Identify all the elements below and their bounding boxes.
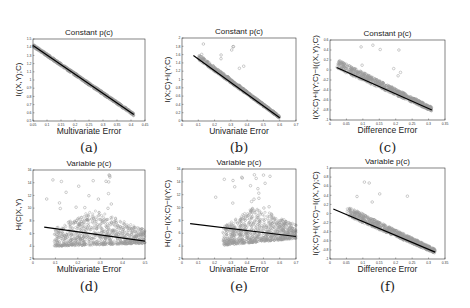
svg-text:0.8: 0.8: [324, 175, 329, 179]
svg-text:-0.8: -0.8: [323, 248, 329, 252]
svg-text:-0.6: -0.6: [323, 98, 329, 102]
svg-text:-0.4: -0.4: [323, 88, 329, 92]
y-axis-label: I(X;C)+I(Y;C)−I((X,Y);C): [311, 40, 320, 120]
svg-text:-1: -1: [325, 118, 328, 122]
svg-text:16: 16: [28, 168, 32, 172]
subfigure-label: (c): [330, 140, 445, 155]
svg-text:1.5: 1.5: [27, 37, 32, 41]
svg-text:4: 4: [179, 244, 181, 248]
svg-text:10: 10: [177, 206, 181, 210]
chart-title: Variable p(c): [182, 158, 296, 167]
svg-text:1.2: 1.2: [27, 62, 32, 66]
svg-text:0.6: 0.6: [176, 94, 181, 98]
svg-text:8: 8: [179, 219, 181, 223]
svg-text:0.4: 0.4: [324, 48, 329, 52]
scatter-plot: 00.050.10.150.20.250.30.35-1-0.8-0.6-0.4…: [330, 168, 445, 259]
svg-text:-0.4: -0.4: [323, 230, 329, 234]
fit-line: [33, 46, 134, 115]
x-axis-label: Univariate Error: [182, 126, 296, 136]
svg-text:0.4: 0.4: [176, 103, 181, 107]
axes-frame: [182, 169, 296, 259]
svg-text:1: 1: [30, 78, 32, 82]
svg-text:0.7: 0.7: [27, 103, 32, 107]
scatter-points: [198, 43, 281, 119]
svg-text:14: 14: [28, 181, 32, 185]
svg-text:0.4: 0.4: [324, 194, 329, 198]
x-axis-label: Multivariate Error: [33, 126, 145, 136]
svg-text:1.2: 1.2: [176, 69, 181, 73]
svg-text:0: 0: [327, 212, 329, 216]
svg-text:1.4: 1.4: [176, 61, 181, 65]
x-axis-label: Univariate Error: [182, 264, 296, 274]
svg-text:12: 12: [28, 194, 32, 198]
svg-text:2: 2: [179, 36, 181, 40]
fit-line: [333, 209, 435, 252]
x-axis-label: Difference Error: [330, 125, 445, 135]
scatter-points: [45, 174, 146, 248]
chart-title: Variable p(c): [33, 159, 145, 168]
svg-text:1: 1: [327, 166, 329, 170]
scatter-plot: 00.10.20.30.40.5246810121416: [33, 170, 145, 259]
scatter-plot: 0.050.10.150.20.250.30.350.40.450.50.60.…: [33, 39, 145, 121]
svg-text:2: 2: [179, 257, 181, 261]
subfigure-label: (b): [182, 140, 296, 155]
y-axis-label: H(C|X,Y): [14, 170, 23, 259]
chart-title: Constant p(c): [182, 27, 296, 36]
scatter-points: [336, 44, 433, 112]
svg-text:0.5: 0.5: [27, 119, 32, 123]
subfigure-label: (e): [182, 279, 296, 294]
svg-text:-0.6: -0.6: [323, 239, 329, 243]
svg-text:1: 1: [179, 78, 181, 82]
svg-text:8: 8: [30, 219, 32, 223]
y-axis-label: I(X;C)+I(Y;C)−I((X,Y);C): [311, 168, 320, 259]
svg-text:1.4: 1.4: [27, 45, 32, 49]
scatter-plot: 00.050.10.150.20.250.30.35-1-0.8-0.6-0.4…: [330, 40, 445, 120]
fit-line: [337, 68, 432, 111]
svg-text:-0.2: -0.2: [323, 78, 329, 82]
x-axis-label: Multivariate Error: [33, 264, 145, 274]
svg-text:0.8: 0.8: [27, 95, 32, 99]
scatter-points: [346, 181, 436, 254]
chart-title: Constant p(c): [33, 28, 145, 37]
svg-text:0.2: 0.2: [176, 111, 181, 115]
fit-line: [193, 55, 279, 117]
svg-text:0.9: 0.9: [27, 86, 32, 90]
svg-text:4: 4: [30, 244, 32, 248]
svg-text:0.6: 0.6: [324, 38, 329, 42]
y-axis-label: I((X,Y);C): [14, 39, 23, 121]
subfigure-label: (d): [33, 279, 145, 294]
axes-frame: [182, 38, 296, 121]
svg-text:-0.2: -0.2: [323, 221, 329, 225]
scatter-plot: 00.10.20.30.40.50.60.700.20.40.60.811.21…: [182, 38, 296, 121]
svg-text:0.2: 0.2: [324, 203, 329, 207]
scatter-plot: 00.10.20.30.40.50.60.7246810121416: [182, 169, 296, 259]
y-axis-label: H(C)−I(X;C)−I(Y;C): [163, 169, 172, 259]
svg-text:6: 6: [30, 232, 32, 236]
subfigure-label: (f): [330, 279, 445, 294]
svg-text:10: 10: [28, 206, 32, 210]
svg-text:0.8: 0.8: [176, 86, 181, 90]
chart-title: Constant p(c): [330, 29, 445, 38]
svg-text:0.6: 0.6: [324, 184, 329, 188]
svg-text:12: 12: [177, 193, 181, 197]
svg-text:-0.8: -0.8: [323, 108, 329, 112]
svg-text:0: 0: [327, 68, 329, 72]
subfigure-label: (a): [33, 140, 145, 155]
svg-text:6: 6: [179, 231, 181, 235]
chart-title: Variable p(c): [330, 157, 445, 166]
svg-text:14: 14: [177, 180, 181, 184]
y-axis-label: I(X;C)+I(Y;C): [163, 38, 172, 121]
svg-text:1.3: 1.3: [27, 54, 32, 58]
svg-text:1.6: 1.6: [176, 53, 181, 57]
svg-text:0.6: 0.6: [27, 111, 32, 115]
svg-text:2: 2: [30, 257, 32, 261]
svg-text:16: 16: [177, 167, 181, 171]
svg-text:1.1: 1.1: [27, 70, 32, 74]
svg-text:1.8: 1.8: [176, 45, 181, 49]
svg-text:0: 0: [179, 119, 181, 123]
x-axis-label: Difference Error: [330, 264, 445, 274]
svg-text:-1: -1: [325, 257, 328, 261]
svg-text:0.2: 0.2: [324, 58, 329, 62]
